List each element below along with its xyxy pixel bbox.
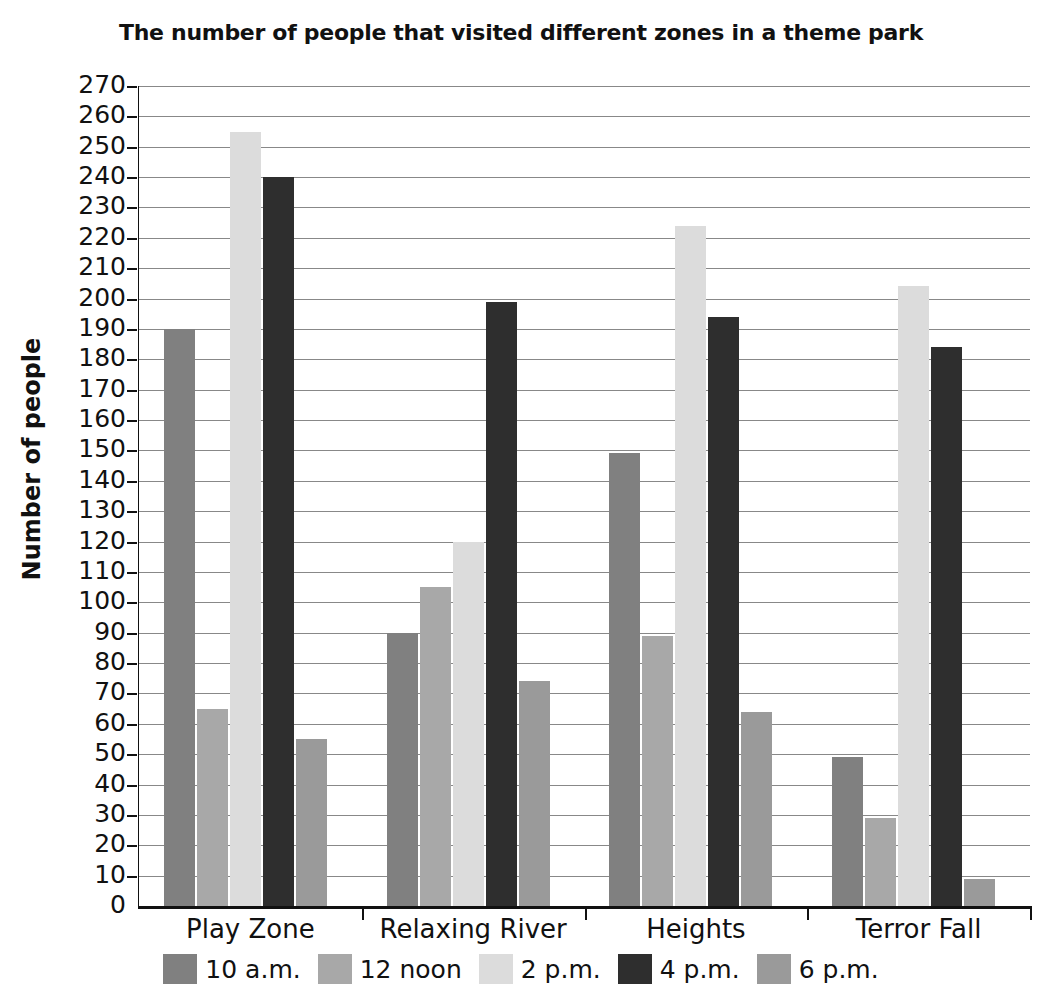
y-tick-mark [127,177,137,179]
y-tick-label: 200 [60,285,126,310]
bar [387,633,418,906]
bar [741,712,772,906]
y-tick-label: 70 [60,679,126,704]
x-axis-group-separator [807,906,809,920]
y-tick-label: 250 [60,133,126,158]
bar [296,739,327,906]
y-tick-label: 20 [60,831,126,856]
y-tick-label: 40 [60,771,126,796]
y-tick-mark [127,693,137,695]
y-tick-mark [127,299,137,301]
y-tick-mark [127,754,137,756]
y-tick-mark [127,724,137,726]
chart-legend: 10 a.m.12 noon2 p.m.4 p.m.6 p.m. [0,954,1042,984]
bar [832,757,863,906]
legend-label: 10 a.m. [205,955,300,984]
bar [230,132,261,906]
x-axis-category-label: Heights [585,914,808,944]
bar [453,542,484,906]
plot-area [139,86,1030,906]
y-tick-label: 150 [60,436,126,461]
x-axis-group-separator [362,906,364,920]
y-tick-label: 270 [60,72,126,97]
gridline [139,86,1030,87]
bar [964,879,995,906]
legend-swatch [318,954,352,984]
y-tick-label: 220 [60,224,126,249]
x-axis-category-label: Play Zone [139,914,362,944]
y-tick-mark [127,207,137,209]
y-tick-label: 50 [60,740,126,765]
legend-item[interactable]: 12 noon [318,954,462,984]
legend-label: 2 p.m. [521,955,601,984]
y-tick-mark [127,268,137,270]
y-tick-mark [127,116,137,118]
bar [486,302,517,906]
chart-plot-wrapper: 2702602502402302202102001901801701601501… [0,0,1042,1003]
bar [420,587,451,906]
legend-label: 6 p.m. [799,955,879,984]
y-tick-label: 110 [60,558,126,583]
y-tick-mark [127,86,137,88]
y-tick-mark [127,845,137,847]
bar [197,709,228,906]
y-tick-label: 90 [60,619,126,644]
y-tick-mark [127,238,137,240]
y-tick-mark [127,633,137,635]
y-tick-label: 130 [60,497,126,522]
y-tick-mark [127,572,137,574]
y-tick-label: 140 [60,467,126,492]
legend-item[interactable]: 6 p.m. [757,954,879,984]
y-tick-mark [127,420,137,422]
y-tick-label: 210 [60,254,126,279]
bar [164,329,195,906]
y-tick-mark [127,542,137,544]
bar [263,177,294,906]
bar [609,453,640,906]
legend-swatch [479,954,513,984]
x-axis-category-label: Terror Fall [807,914,1030,944]
y-tick-label: 30 [60,801,126,826]
y-tick-label: 80 [60,649,126,674]
legend-swatch [163,954,197,984]
x-axis-category-label: Relaxing River [362,914,585,944]
y-tick-label: 260 [60,102,126,127]
x-axis-group-separator [1030,906,1032,920]
y-tick-label: 170 [60,376,126,401]
bar [642,636,673,906]
y-tick-mark [127,147,137,149]
x-axis-group-separator [585,906,587,920]
y-tick-mark [127,329,137,331]
y-tick-mark [127,785,137,787]
legend-label: 12 noon [360,955,462,984]
gridline [139,116,1030,117]
legend-swatch [757,954,791,984]
y-tick-mark [127,815,137,817]
gridline [139,147,1030,148]
bar [865,818,896,906]
bar [519,681,550,906]
legend-label: 4 p.m. [660,955,740,984]
y-tick-label: 240 [60,163,126,188]
y-tick-mark [127,876,137,878]
y-tick-mark [127,481,137,483]
legend-item[interactable]: 10 a.m. [163,954,300,984]
y-tick-mark [127,359,137,361]
y-tick-mark [127,390,137,392]
bar [931,347,962,906]
y-tick-label: 160 [60,406,126,431]
y-tick-mark [127,511,137,513]
y-tick-label: 120 [60,528,126,553]
y-tick-label: 230 [60,193,126,218]
y-tick-label: 190 [60,315,126,340]
legend-item[interactable]: 4 p.m. [618,954,740,984]
y-tick-label: 180 [60,345,126,370]
legend-item[interactable]: 2 p.m. [479,954,601,984]
bar [898,286,929,906]
y-tick-mark [127,663,137,665]
y-tick-label: 10 [60,862,126,887]
y-tick-label: 0 [60,892,126,917]
y-tick-label: 60 [60,710,126,735]
y-tick-label: 100 [60,588,126,613]
y-tick-mark [127,450,137,452]
